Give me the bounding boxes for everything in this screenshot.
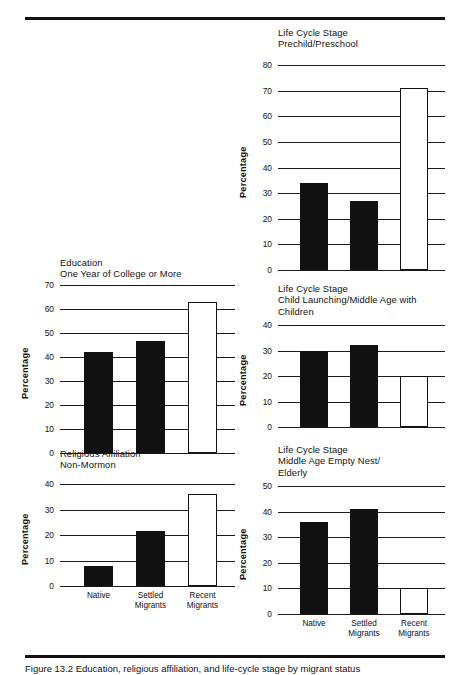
bar-recent-migrants <box>400 588 428 614</box>
plot-area: 010203040 <box>278 325 445 427</box>
chart-title: Life Cycle Stage Middle Age Empty Nest/ … <box>278 444 470 478</box>
bar-recent-migrants <box>188 494 217 586</box>
y-tick-label: 20 <box>32 530 54 540</box>
plot-area: 010203040NativeSettled MigrantsRecent Mi… <box>60 484 235 586</box>
gridline <box>278 325 445 326</box>
bar-recent-migrants <box>188 302 217 453</box>
x-axis-line <box>278 427 445 428</box>
y-tick-label: 40 <box>250 507 272 517</box>
y-tick-label: 40 <box>250 163 272 173</box>
y-axis-label: Percentage <box>20 347 30 399</box>
bar-native <box>84 566 113 586</box>
y-tick-label: 0 <box>32 448 54 458</box>
y-tick-label: 20 <box>250 558 272 568</box>
y-tick-label: 50 <box>32 328 54 338</box>
chart-title: Life Cycle Stage Prechild/Preschool <box>278 27 470 50</box>
bar-recent-migrants <box>400 376 428 427</box>
y-tick-label: 70 <box>250 86 272 96</box>
y-tick-label: 0 <box>250 422 272 432</box>
bar-settled-migrants <box>350 201 378 270</box>
bar-settled-migrants <box>350 509 378 614</box>
y-tick-label: 0 <box>250 609 272 619</box>
x-axis-line <box>278 614 445 615</box>
bar-recent-migrants <box>400 88 428 270</box>
plot-area: 010203040506070 <box>60 285 235 453</box>
x-tick-label: Settled Migrants <box>336 619 392 638</box>
x-tick-label: Native <box>70 591 127 601</box>
bar-native <box>300 183 328 270</box>
plot-area: 01020304050NativeSettled MigrantsRecent … <box>278 486 445 614</box>
bar-settled-migrants <box>136 341 165 453</box>
chart-title: Religious Affiliation Non-Mormon <box>60 448 260 471</box>
y-tick-label: 20 <box>250 214 272 224</box>
y-axis-label: Percentage <box>238 146 248 198</box>
y-tick-label: 10 <box>32 556 54 566</box>
bar-settled-migrants <box>350 345 378 427</box>
y-tick-label: 40 <box>32 352 54 362</box>
y-tick-label: 30 <box>32 505 54 515</box>
y-tick-label: 40 <box>32 479 54 489</box>
y-tick-label: 70 <box>32 280 54 290</box>
y-tick-label: 10 <box>250 397 272 407</box>
x-tick-label: Recent Migrants <box>386 619 442 638</box>
y-tick-label: 80 <box>250 60 272 70</box>
x-tick-label: Settled Migrants <box>122 591 179 610</box>
y-tick-label: 10 <box>32 424 54 434</box>
x-tick-label: Recent Migrants <box>174 591 231 610</box>
y-tick-label: 30 <box>250 532 272 542</box>
x-axis-line <box>60 586 235 587</box>
y-tick-label: 0 <box>32 581 54 591</box>
y-tick-label: 40 <box>250 320 272 330</box>
figure-page: Life Cycle Stage Prechild/Preschool01020… <box>0 0 470 675</box>
bottom-rule <box>25 655 445 658</box>
y-tick-label: 30 <box>32 376 54 386</box>
y-tick-label: 10 <box>250 583 272 593</box>
y-tick-label: 20 <box>32 400 54 410</box>
gridline <box>278 486 445 487</box>
y-tick-label: 60 <box>250 111 272 121</box>
x-tick-label: Native <box>286 619 342 629</box>
top-rule <box>25 17 445 20</box>
bar-native <box>84 352 113 453</box>
gridline <box>278 65 445 66</box>
y-tick-label: 20 <box>250 371 272 381</box>
chart-title: Life Cycle Stage Child Launching/Middle … <box>278 283 470 317</box>
gridline <box>60 285 235 286</box>
y-tick-label: 50 <box>250 137 272 147</box>
figure-caption: Figure 13.2 Education, religious affilia… <box>25 663 455 675</box>
chart-title: Education One Year of College or More <box>60 257 260 280</box>
y-tick-label: 30 <box>250 188 272 198</box>
y-tick-label: 10 <box>250 239 272 249</box>
y-axis-label: Percentage <box>20 513 30 565</box>
y-tick-label: 30 <box>250 346 272 356</box>
y-axis-label: Percentage <box>238 354 248 406</box>
gridline <box>60 484 235 485</box>
y-tick-label: 50 <box>250 481 272 491</box>
y-tick-label: 60 <box>32 304 54 314</box>
x-axis-line <box>278 270 445 271</box>
plot-area: 01020304050607080 <box>278 65 445 270</box>
bar-native <box>300 351 328 428</box>
bar-settled-migrants <box>136 531 165 586</box>
bar-native <box>300 522 328 614</box>
y-axis-label: Percentage <box>238 528 248 580</box>
